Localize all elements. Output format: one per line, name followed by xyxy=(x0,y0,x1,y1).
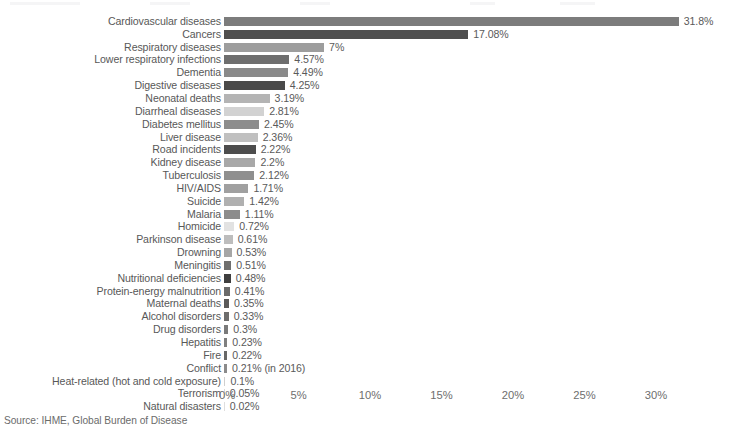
bar xyxy=(224,210,240,219)
value-label: 1.11% xyxy=(245,209,274,220)
value-label: 2.22% xyxy=(261,144,291,155)
axis-tick: 30% xyxy=(645,389,667,401)
bar xyxy=(224,325,228,334)
value-label: 31.8% xyxy=(684,16,714,27)
bar-row: Kidney disease2.2% xyxy=(0,156,752,169)
value-label: 3.19% xyxy=(275,93,305,104)
x-axis: 0%5%10%15%20%25%30% xyxy=(224,389,752,405)
bar xyxy=(224,338,227,347)
value-label: 0.23% xyxy=(232,337,262,348)
bar-track: 0.35% xyxy=(224,298,752,311)
value-label: 2.12% xyxy=(259,170,289,181)
bar-row: Cardiovascular diseases31.8% xyxy=(0,15,752,28)
category-label: Parkinson disease xyxy=(0,234,224,245)
value-label: 0.3% xyxy=(233,324,257,335)
bar xyxy=(224,235,233,244)
bar-row: Drug disorders0.3% xyxy=(0,323,752,336)
bar-row: Heat-related (hot and cold exposure)0.1% xyxy=(0,375,752,388)
bar-track: 0.23% xyxy=(224,336,752,349)
bar-track: 0.21% (in 2016) xyxy=(224,362,752,375)
scan-artifact xyxy=(150,2,190,5)
bar-row: Dementia4.49% xyxy=(0,66,752,79)
bar-row: Meningitis0.51% xyxy=(0,259,752,272)
bar-row: Diarrheal diseases2.81% xyxy=(0,105,752,118)
bar-row: Hepatitis0.23% xyxy=(0,336,752,349)
bar xyxy=(224,133,258,142)
value-label: 0.1% xyxy=(230,376,254,387)
category-label: Kidney disease xyxy=(0,157,224,168)
value-label: 4.49% xyxy=(293,67,323,78)
value-label: 7% xyxy=(329,42,344,53)
axis-tick: 25% xyxy=(573,389,595,401)
category-label: Conflict xyxy=(0,363,224,374)
bar-track: 0.53% xyxy=(224,246,752,259)
value-label: 0.61% xyxy=(238,234,268,245)
category-label: Suicide xyxy=(0,196,224,207)
bar-row: Suicide1.42% xyxy=(0,195,752,208)
bar xyxy=(224,158,255,167)
category-label: Tuberculosis xyxy=(0,170,224,181)
bar-track: 17.08% xyxy=(224,28,752,41)
bar-row: Tuberculosis2.12% xyxy=(0,169,752,182)
category-label: Alcohol disorders xyxy=(0,311,224,322)
bar-track: 0.1% xyxy=(224,375,752,388)
bar xyxy=(224,364,227,373)
bar xyxy=(224,94,270,103)
bar-row: Nutritional deficiencies0.48% xyxy=(0,272,752,285)
bar-track: 3.19% xyxy=(224,92,752,105)
category-label: Heat-related (hot and cold exposure) xyxy=(0,376,224,387)
bar-track: 2.81% xyxy=(224,105,752,118)
category-label: Natural disasters xyxy=(0,401,224,412)
bar-row: Alcohol disorders0.33% xyxy=(0,310,752,323)
bar-row: Protein-energy malnutrition0.41% xyxy=(0,285,752,298)
value-label: 0.21% (in 2016) xyxy=(232,363,305,374)
bar-track: 0.51% xyxy=(224,259,752,272)
category-label: Dementia xyxy=(0,67,224,78)
bar-row: HIV/AIDS1.71% xyxy=(0,182,752,195)
bar-track: 0.41% xyxy=(224,285,752,298)
bar-row: Maternal deaths0.35% xyxy=(0,298,752,311)
bar xyxy=(224,248,232,257)
value-label: 0.33% xyxy=(234,311,264,322)
value-label: 0.72% xyxy=(239,221,269,232)
bar-row: Conflict0.21% (in 2016) xyxy=(0,362,752,375)
bar xyxy=(224,30,468,39)
bar xyxy=(224,261,231,270)
bar-track: 0.48% xyxy=(224,272,752,285)
category-label: Respiratory diseases xyxy=(0,42,224,53)
bar xyxy=(224,120,259,129)
scan-artifact xyxy=(300,2,330,5)
bar xyxy=(224,68,288,77)
category-label: Lower respiratory infections xyxy=(0,54,224,65)
category-label: HIV/AIDS xyxy=(0,183,224,194)
category-label: Cardiovascular diseases xyxy=(0,16,224,27)
bar xyxy=(224,351,227,360)
bar xyxy=(224,287,230,296)
bar-row: Respiratory diseases7% xyxy=(0,41,752,54)
source-note: Source: IHME, Global Burden of Disease xyxy=(4,415,187,426)
bar-track: 2.22% xyxy=(224,143,752,156)
value-label: 2.36% xyxy=(263,132,293,143)
scan-artifact xyxy=(10,2,80,5)
bar-track: 7% xyxy=(224,41,752,54)
category-label: Digestive diseases xyxy=(0,80,224,91)
bar xyxy=(224,81,285,90)
value-label: 17.08% xyxy=(473,29,508,40)
bar-track: 0.33% xyxy=(224,310,752,323)
value-label: 1.42% xyxy=(249,196,279,207)
bar-track: 2.36% xyxy=(224,131,752,144)
category-label: Nutritional deficiencies xyxy=(0,273,224,284)
category-label: Drug disorders xyxy=(0,324,224,335)
category-label: Homicide xyxy=(0,221,224,232)
category-label: Malaria xyxy=(0,209,224,220)
bar xyxy=(224,184,248,193)
bar xyxy=(224,299,229,308)
bar xyxy=(224,145,256,154)
category-label: Terrorism xyxy=(0,388,224,399)
category-label: Liver disease xyxy=(0,132,224,143)
bar-track: 0.72% xyxy=(224,221,752,234)
bar-row: Road incidents2.22% xyxy=(0,143,752,156)
bar-track: 2.12% xyxy=(224,169,752,182)
axis-tick: 0% xyxy=(219,389,235,401)
bar-track: 1.42% xyxy=(224,195,752,208)
